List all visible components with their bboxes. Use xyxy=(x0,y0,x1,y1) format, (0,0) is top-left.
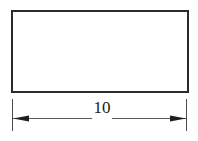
drawing-canvas xyxy=(0,0,198,141)
dimension-label: 10 xyxy=(84,98,120,117)
rectangle-shape xyxy=(12,11,188,92)
left-arrow-icon xyxy=(13,116,29,122)
right-arrow-icon xyxy=(170,116,186,122)
technical-drawing-figure: 10 xyxy=(0,0,198,141)
